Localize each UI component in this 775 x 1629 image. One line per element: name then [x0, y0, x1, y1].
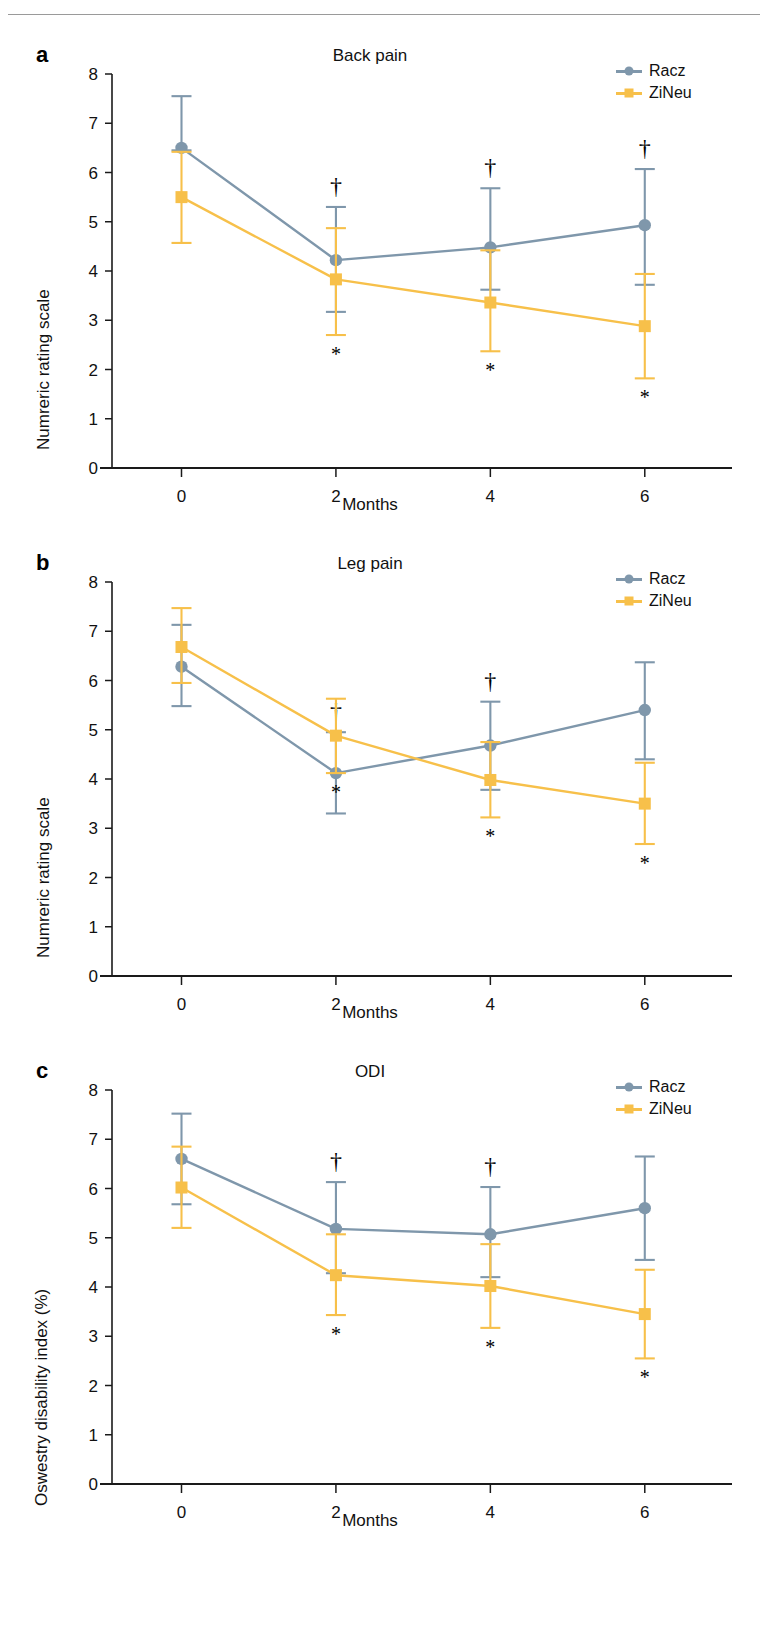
svg-text:7: 7 — [89, 114, 98, 133]
svg-text:3: 3 — [89, 311, 98, 330]
svg-text:6: 6 — [89, 1180, 98, 1199]
svg-text:5: 5 — [89, 721, 98, 740]
svg-text:4: 4 — [89, 770, 98, 789]
panel-c-plot: 0123456780246††*** — [0, 1056, 775, 1506]
svg-text:2: 2 — [89, 361, 98, 380]
svg-text:8: 8 — [89, 1081, 98, 1100]
svg-text:*: * — [331, 343, 341, 365]
svg-text:†: † — [484, 1153, 496, 1179]
svg-text:7: 7 — [89, 1130, 98, 1149]
svg-text:1: 1 — [89, 1426, 98, 1445]
svg-text:4: 4 — [486, 487, 495, 506]
panel-a-plot: 0123456780246†††*** — [0, 40, 775, 490]
svg-text:0: 0 — [177, 1503, 186, 1522]
svg-text:8: 8 — [89, 573, 98, 592]
svg-text:5: 5 — [89, 213, 98, 232]
svg-text:†: † — [484, 668, 496, 694]
svg-text:3: 3 — [89, 1327, 98, 1346]
figure-page: a Back pain Numreric rating scale Months… — [0, 0, 775, 1629]
svg-text:*: * — [640, 1366, 650, 1388]
svg-text:0: 0 — [177, 995, 186, 1014]
svg-text:*: * — [485, 359, 495, 381]
svg-text:0: 0 — [177, 487, 186, 506]
svg-text:6: 6 — [640, 487, 649, 506]
panel-b-xlabel: Months — [255, 1003, 485, 1023]
svg-text:6: 6 — [640, 1503, 649, 1522]
svg-text:*: * — [331, 1323, 341, 1345]
svg-text:*: * — [485, 1336, 495, 1358]
panel-a: a Back pain Numreric rating scale Months… — [0, 40, 775, 540]
svg-text:2: 2 — [89, 1377, 98, 1396]
svg-text:†: † — [484, 154, 496, 180]
svg-text:*: * — [331, 781, 341, 803]
svg-text:2: 2 — [331, 487, 340, 506]
svg-text:*: * — [640, 852, 650, 874]
header-rule — [8, 14, 760, 15]
svg-text:2: 2 — [331, 1503, 340, 1522]
svg-text:2: 2 — [89, 869, 98, 888]
svg-text:0: 0 — [89, 459, 98, 478]
svg-text:1: 1 — [89, 410, 98, 429]
svg-text:4: 4 — [89, 262, 98, 281]
svg-text:2: 2 — [331, 995, 340, 1014]
panel-c: c ODI Oswestry disability index (%) Mont… — [0, 1056, 775, 1556]
svg-text:6: 6 — [89, 672, 98, 691]
svg-text:*: * — [640, 386, 650, 408]
svg-text:0: 0 — [89, 1475, 98, 1494]
panel-a-xlabel: Months — [255, 495, 485, 515]
panel-b-plot: 0123456780246††*** — [0, 548, 775, 998]
svg-text:4: 4 — [486, 1503, 495, 1522]
svg-text:4: 4 — [89, 1278, 98, 1297]
svg-text:3: 3 — [89, 819, 98, 838]
svg-text:4: 4 — [486, 995, 495, 1014]
svg-text:†: † — [639, 135, 651, 161]
svg-text:8: 8 — [89, 65, 98, 84]
svg-text:6: 6 — [640, 995, 649, 1014]
panel-b: b Leg pain Numreric rating scale Months … — [0, 548, 775, 1048]
svg-text:1: 1 — [89, 918, 98, 937]
svg-text:6: 6 — [89, 164, 98, 183]
svg-text:7: 7 — [89, 622, 98, 641]
svg-text:†: † — [330, 1148, 342, 1174]
svg-text:0: 0 — [89, 967, 98, 986]
svg-text:5: 5 — [89, 1229, 98, 1248]
svg-text:†: † — [330, 173, 342, 199]
svg-text:*: * — [485, 825, 495, 847]
panel-c-xlabel: Months — [255, 1511, 485, 1531]
